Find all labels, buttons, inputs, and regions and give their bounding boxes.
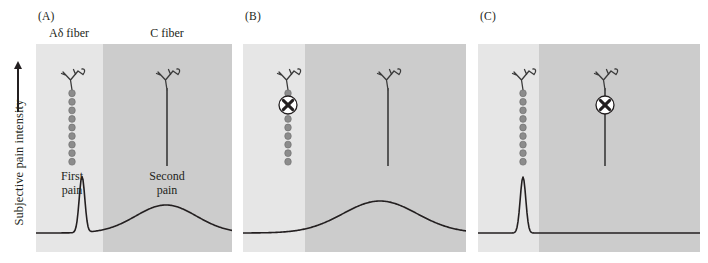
panel-dark-region [103, 44, 232, 252]
pain-phase-label-line: Second [117, 170, 217, 184]
panel-dark-region [305, 44, 466, 252]
panel-c [478, 44, 700, 252]
y-axis: Subjective pain intensity [0, 60, 34, 260]
panel-tag: (A) [38, 10, 55, 22]
panel-light-region [36, 44, 103, 252]
pain-pathway-figure: Subjective pain intensity FirstpainSecon… [0, 0, 708, 263]
panel-tag: (C) [480, 10, 496, 22]
y-axis-label: Subjective pain intensity [12, 78, 27, 248]
fiber-column-title: C fiber [107, 26, 227, 41]
panel-b [243, 44, 466, 252]
panel-light-region [478, 44, 539, 252]
panel-light-region [243, 44, 305, 252]
pain-phase-label-line: pain [36, 184, 122, 198]
pain-phase-label: Firstpain [36, 170, 122, 197]
pain-phase-label-line: pain [117, 184, 217, 198]
pain-phase-label: Secondpain [117, 170, 217, 197]
panel-a: FirstpainSecondpain [36, 44, 232, 252]
pain-phase-label-line: First [36, 170, 122, 184]
panel-tag: (B) [245, 10, 261, 22]
panel-dark-region [539, 44, 700, 252]
